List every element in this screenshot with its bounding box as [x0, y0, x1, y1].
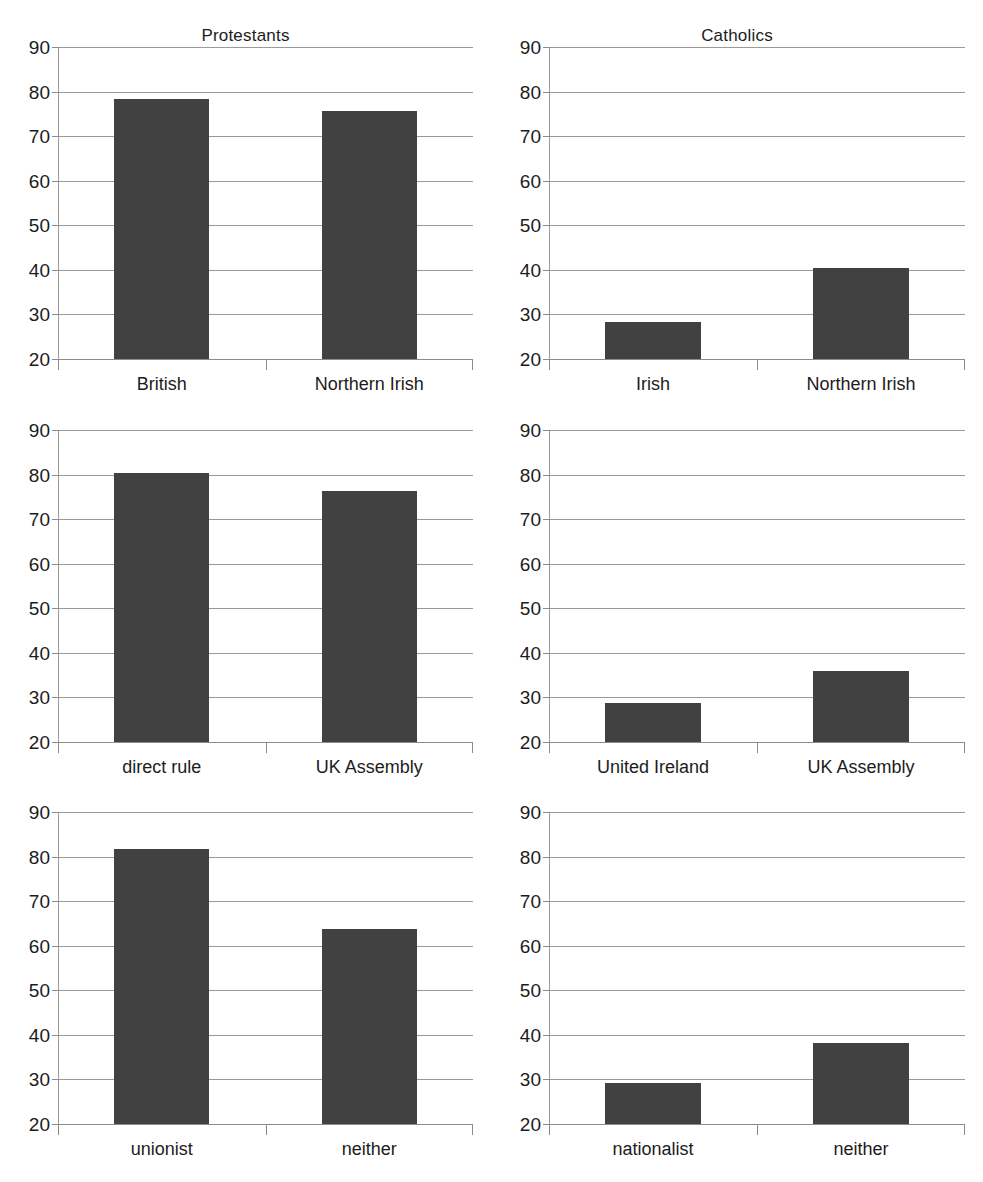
- y-tick-label: 60: [520, 171, 541, 190]
- bar: [114, 99, 209, 359]
- y-tick-mark: [543, 1079, 550, 1080]
- y-tick-mark: [543, 564, 550, 565]
- gridline: [549, 475, 965, 476]
- category-labels-4: unionist neither: [58, 1138, 473, 1160]
- y-tick-mark: [52, 946, 59, 947]
- chart-title-catholics: Catholics: [491, 26, 983, 46]
- gridline: [549, 1035, 965, 1036]
- bar: [813, 1043, 909, 1124]
- y-tick-mark: [52, 990, 59, 991]
- gridline: [549, 812, 965, 813]
- gridline: [549, 608, 965, 609]
- plot-area-1: 2030405060708090 Irish Northern Irish: [549, 47, 965, 359]
- y-tick-mark: [543, 653, 550, 654]
- y-tick-mark: [52, 225, 59, 226]
- x-axis-category-divider: [266, 1124, 267, 1135]
- y-tick-label: 90: [520, 38, 541, 57]
- y-tick-label: 90: [29, 421, 50, 440]
- x-axis-1: [549, 359, 965, 371]
- y-axis-line: [549, 430, 550, 742]
- y-tick-mark: [543, 519, 550, 520]
- y-tick-mark: [52, 608, 59, 609]
- y-tick-mark: [543, 270, 550, 271]
- y-tick-label: 20: [520, 350, 541, 369]
- y-tick-mark: [543, 857, 550, 858]
- y-tick-mark: [543, 47, 550, 48]
- y-tick-label: 40: [29, 643, 50, 662]
- gridline: [549, 990, 965, 991]
- y-tick-mark: [52, 430, 59, 431]
- y-tick-label: 60: [29, 936, 50, 955]
- y-tick-mark: [543, 697, 550, 698]
- y-tick-mark: [543, 136, 550, 137]
- plot-0: 2030405060708090: [58, 47, 473, 359]
- gridline: [58, 430, 473, 431]
- category-labels-1: Irish Northern Irish: [549, 373, 965, 395]
- y-tick-mark: [52, 47, 59, 48]
- y-axis-line: [549, 47, 550, 359]
- gridline: [549, 901, 965, 902]
- gridline: [549, 181, 965, 182]
- plot-area-3: 2030405060708090 United Ireland UK Assem…: [549, 430, 965, 742]
- chart-panel-identity-protestants: 2030405060708090 unionist neither: [0, 780, 491, 1182]
- plot-area-5: 2030405060708090 nationalist neither: [549, 812, 965, 1124]
- plot-5: 2030405060708090: [549, 812, 965, 1124]
- y-tick-mark: [543, 1035, 550, 1036]
- gridline: [549, 225, 965, 226]
- y-tick-label: 50: [520, 599, 541, 618]
- category-label: Irish: [549, 373, 757, 395]
- x-axis-category-divider: [266, 742, 267, 753]
- y-tick-mark: [52, 519, 59, 520]
- y-tick-label: 20: [520, 1115, 541, 1134]
- category-labels-2: direct rule UK Assembly: [58, 756, 473, 778]
- y-tick-label: 70: [29, 892, 50, 911]
- x-axis-category-divider: [266, 359, 267, 370]
- bar: [813, 268, 909, 359]
- x-axis-category-divider: [757, 1124, 758, 1135]
- x-axis-end-right: [472, 359, 473, 370]
- gridline: [58, 47, 473, 48]
- y-tick-mark: [543, 225, 550, 226]
- plot-3: 2030405060708090: [549, 430, 965, 742]
- y-tick-label: 30: [520, 305, 541, 324]
- plot-1: 2030405060708090: [549, 47, 965, 359]
- x-axis-0: [58, 359, 473, 371]
- gridline: [549, 946, 965, 947]
- y-axis-line: [58, 812, 59, 1124]
- chart-panel-protestants: Protestants 2030405060708090 British Nor…: [0, 0, 491, 400]
- plot-2: 2030405060708090: [58, 430, 473, 742]
- bar: [605, 703, 701, 742]
- gridline: [58, 92, 473, 93]
- y-tick-mark: [52, 1079, 59, 1080]
- y-tick-mark: [52, 1035, 59, 1036]
- plot-area-0: 2030405060708090 British Northern Irish: [58, 47, 473, 359]
- y-tick-mark: [52, 901, 59, 902]
- y-tick-mark: [543, 92, 550, 93]
- x-axis-category-divider: [757, 359, 758, 370]
- bar: [605, 322, 701, 359]
- x-axis-end-right: [964, 742, 965, 753]
- y-tick-label: 90: [29, 38, 50, 57]
- y-tick-label: 50: [29, 981, 50, 1000]
- y-tick-label: 60: [29, 554, 50, 573]
- gridline: [549, 92, 965, 93]
- y-tick-label: 40: [520, 643, 541, 662]
- chart-title-protestants: Protestants: [0, 26, 491, 46]
- bar: [114, 849, 209, 1124]
- category-label: Northern Irish: [266, 373, 474, 395]
- y-tick-label: 30: [29, 1070, 50, 1089]
- gridline: [549, 136, 965, 137]
- y-tick-label: 60: [520, 936, 541, 955]
- y-tick-mark: [52, 181, 59, 182]
- x-axis-end-left: [549, 1124, 550, 1135]
- y-tick-label: 80: [29, 465, 50, 484]
- y-tick-label: 80: [29, 847, 50, 866]
- gridline: [549, 519, 965, 520]
- bar: [605, 1083, 701, 1124]
- y-tick-label: 20: [29, 1115, 50, 1134]
- y-tick-mark: [52, 812, 59, 813]
- y-tick-label: 40: [29, 260, 50, 279]
- y-tick-label: 70: [29, 127, 50, 146]
- category-label: British: [58, 373, 266, 395]
- y-tick-label: 70: [29, 510, 50, 529]
